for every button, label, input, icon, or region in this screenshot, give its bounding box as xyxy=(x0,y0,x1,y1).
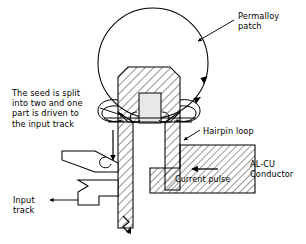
leader-permalloy xyxy=(198,20,234,41)
label-current-pulse: Current pulse xyxy=(175,175,230,185)
label-permalloy-patch: Permalloy patch xyxy=(238,11,279,31)
label-seed-note: The seed is split into two and one part … xyxy=(12,88,83,129)
input-track-elements xyxy=(62,151,118,205)
label-hairpin-loop: Hairpin loop xyxy=(203,126,254,136)
label-alcu-conductor: AL-CU Conductor xyxy=(250,159,293,179)
label-input-track: Input track xyxy=(13,195,35,215)
bubble-memory-diagram: Permalloy patch Hairpin loop AL-CU Condu… xyxy=(0,0,306,244)
rotation-arrow-lower xyxy=(194,97,202,104)
rotation-arrow-upper xyxy=(201,76,208,84)
leader-hairpin xyxy=(184,130,200,140)
hairpin-loop-structure xyxy=(118,67,180,234)
input-track-upper xyxy=(62,151,118,172)
hairpin-left-leg xyxy=(118,112,133,228)
input-track-lower xyxy=(78,180,118,205)
